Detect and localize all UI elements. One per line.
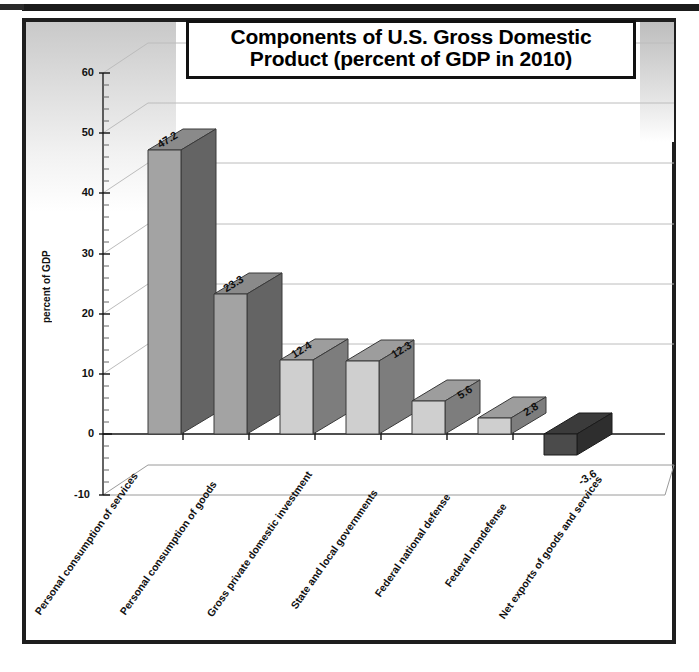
y-tick-label-30: 30	[60, 247, 94, 259]
y-tick-label-60: 60	[60, 66, 94, 78]
chart-title: Components of U.S. Gross Domestic Produc…	[186, 20, 636, 79]
bar-net-exports-of-goods-and-services	[544, 413, 612, 455]
y-tick-label-0: 0	[60, 427, 94, 439]
chart-title-line-2: Product (percent of GDP in 2010)	[195, 48, 627, 70]
y-tick-label-40: 40	[60, 186, 94, 198]
y-tick-label-10: 10	[60, 367, 94, 379]
y-tick-label-20: 20	[60, 307, 94, 319]
y-axis-title: percent of GDP	[38, 237, 54, 337]
chart-plot-area	[0, 0, 699, 672]
bar-personal-consumption-of-goods	[214, 273, 282, 434]
y-axis-major-ticks	[99, 73, 112, 495]
chart-title-line-1: Components of U.S. Gross Domestic	[195, 26, 627, 48]
y-axis-ticks	[103, 85, 109, 482]
chart-page: Components of U.S. Gross Domestic Produc…	[0, 0, 699, 672]
y-tick-label-50: 50	[60, 126, 94, 138]
bar-personal-consumption-of-services	[148, 129, 216, 434]
y-tick-label-neg10: -10	[56, 488, 90, 500]
